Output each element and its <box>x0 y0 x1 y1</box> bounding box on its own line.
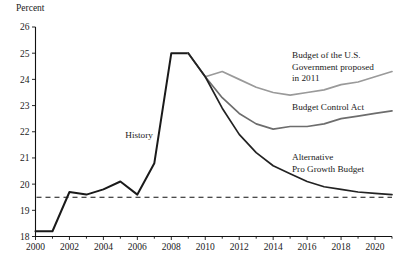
y-axis-tick-label: 20 <box>20 180 30 190</box>
label-budget-control-act: Budget Control Act <box>292 102 364 112</box>
y-axis-tick-label: 24 <box>20 75 30 85</box>
y-axis-tick-label: 19 <box>20 206 30 216</box>
x-axis-tick-label: 2012 <box>230 242 249 252</box>
x-axis-tick-label: 2000 <box>26 242 45 252</box>
y-axis-title: Percent <box>16 3 45 13</box>
chart-container: 1819202122232425262000200220042006200820… <box>0 0 402 267</box>
x-axis-tick-label: 2016 <box>298 242 317 252</box>
x-axis-tick-label: 2002 <box>60 242 79 252</box>
x-axis-tick-label: 2014 <box>264 242 283 252</box>
x-axis-tick-label: 2006 <box>128 242 147 252</box>
plot-background <box>0 0 402 267</box>
x-axis-tick-label: 2018 <box>332 242 351 252</box>
annotation-history: History <box>125 130 153 140</box>
x-axis-tick-label: 2020 <box>366 242 385 252</box>
line-chart-svg: 1819202122232425262000200220042006200820… <box>0 0 402 267</box>
y-axis-tick-label: 21 <box>20 153 30 163</box>
y-axis-tick-label: 22 <box>20 127 30 137</box>
y-axis-tick-label: 26 <box>20 22 30 32</box>
y-axis-tick-label: 18 <box>20 232 30 242</box>
y-axis-tick-label: 25 <box>20 49 30 59</box>
x-axis-tick-label: 2008 <box>162 242 181 252</box>
x-axis-tick-label: 2004 <box>94 242 113 252</box>
x-axis-tick-label: 2010 <box>196 242 215 252</box>
y-axis-tick-label: 23 <box>20 101 30 111</box>
